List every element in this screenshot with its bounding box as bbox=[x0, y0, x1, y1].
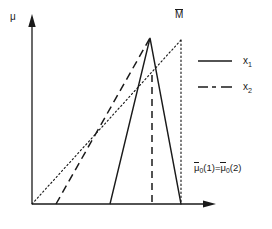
series-x1-solid-triangle bbox=[110, 38, 181, 204]
y-axis-label: μ bbox=[10, 12, 16, 22]
legend-x1-subscript: 1 bbox=[248, 60, 252, 69]
envelope-dotted-rising-line bbox=[32, 40, 181, 204]
m-bar-label: M bbox=[175, 10, 183, 20]
mu0-first-arg: (1) bbox=[203, 162, 215, 173]
legend-item-x2-label: x2 bbox=[243, 82, 252, 94]
series-x2-dashed-rising-line bbox=[56, 38, 150, 204]
legend-item-x1-label: x1 bbox=[243, 56, 252, 68]
overline-rule bbox=[175, 9, 183, 10]
legend-x2-subscript: 2 bbox=[248, 86, 252, 95]
mu0-first-mu: μ bbox=[194, 162, 199, 173]
m-bar-overline-group: M bbox=[175, 10, 183, 20]
fuzzy-membership-figure: μ M x1 x2 μ0(1)=μ0(2) bbox=[0, 0, 272, 229]
mu0-second-arg: (2) bbox=[230, 162, 242, 173]
mu0-second-overline-group: μ bbox=[220, 163, 225, 173]
overline-rule bbox=[220, 162, 225, 163]
overline-rule bbox=[194, 162, 199, 163]
plot-canvas bbox=[0, 0, 272, 229]
mu0-first-overline-group: μ bbox=[194, 163, 199, 173]
x-axis-arrowhead bbox=[203, 201, 216, 208]
mu0-equality-annotation: μ0(1)=μ0(2) bbox=[194, 163, 241, 175]
m-bar-letter: M bbox=[175, 9, 183, 20]
y-axis-arrowhead bbox=[28, 14, 35, 27]
mu0-second-mu: μ bbox=[220, 162, 225, 173]
